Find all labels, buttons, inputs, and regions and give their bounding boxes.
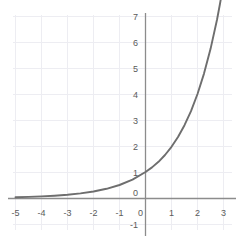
y-tick-label-5: 5 <box>133 64 138 74</box>
chart-canvas: -5 -4 -3 -2 -1 0 1 2 3 7 6 5 4 3 2 1 0 -… <box>0 0 238 238</box>
y-tick-label-4: 4 <box>133 90 138 100</box>
x-tick-label--5: -5 <box>11 208 19 218</box>
y-tick-label-6: 6 <box>133 38 138 48</box>
x-tick-label-3: 3 <box>221 208 226 218</box>
y-tick-label-2: 2 <box>133 142 138 152</box>
exponential-function-graph: -5 -4 -3 -2 -1 0 1 2 3 7 6 5 4 3 2 1 0 -… <box>0 0 238 238</box>
y-tick-label-7: 7 <box>133 12 138 22</box>
y-tick-label-3: 3 <box>133 116 138 126</box>
x-tick-label--3: -3 <box>63 208 71 218</box>
x-tick-label-1: 1 <box>169 208 174 218</box>
x-tick-label--1: -1 <box>115 208 123 218</box>
x-tick-label--4: -4 <box>37 208 45 218</box>
x-tick-label--2: -2 <box>89 208 97 218</box>
y-tick-label--1: -1 <box>130 220 138 230</box>
x-tick-label-0: 0 <box>138 208 143 218</box>
y-tick-label-0: 0 <box>133 188 138 198</box>
y-tick-label-1: 1 <box>133 168 138 178</box>
x-tick-label-2: 2 <box>195 208 200 218</box>
